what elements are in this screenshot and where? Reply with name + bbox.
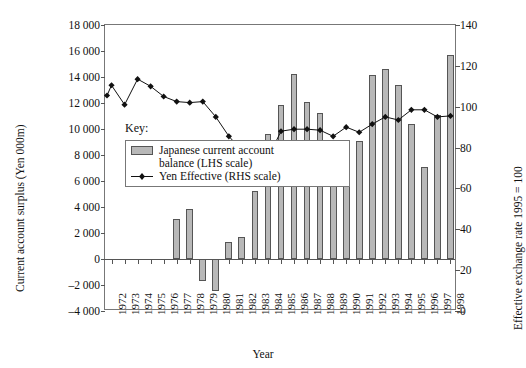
y-axis-left-tick-label: 6 000: [74, 175, 100, 187]
line-marker: [108, 82, 114, 88]
y-axis-right-title: Effective exchange rate 1995 = 100: [512, 166, 524, 330]
plot-area: –4 000–2 00002 0004 0006 0008 00010 0001…: [104, 24, 456, 310]
y-axis-left-tick-label: –4 000: [68, 305, 100, 317]
line-swatch-icon: [131, 171, 153, 182]
legend-label-bar: Japanese current account balance (LHS sc…: [159, 144, 274, 170]
line-marker: [369, 121, 375, 127]
y-axis-left-tick: [101, 311, 106, 312]
chart-figure: Current account surplus (Yen 000m) Effec…: [0, 0, 526, 368]
y-axis-left-tick-label: 16 000: [68, 45, 100, 57]
line-marker: [134, 76, 140, 82]
y-axis-right-tick-label: 40: [460, 223, 472, 235]
line-marker: [104, 92, 110, 98]
legend-item-bar: Japanese current account balance (LHS sc…: [131, 144, 343, 170]
line-marker: [304, 126, 310, 132]
y-axis-left-tick-label: 0: [94, 253, 100, 265]
line-marker: [343, 124, 349, 130]
line-marker: [187, 100, 193, 106]
y-axis-right-tick-label: 120: [460, 60, 477, 72]
line-marker: [421, 107, 427, 113]
y-axis-left-tick-label: 12 000: [68, 97, 100, 109]
y-axis-left-tick-label: 4 000: [74, 201, 100, 213]
y-axis-left-tick-label: 10 000: [68, 123, 100, 135]
y-axis-left-tick-label: 14 000: [68, 71, 100, 83]
y-axis-left-tick-label: 8 000: [74, 149, 100, 161]
y-axis-right-tick-label: 140: [460, 19, 477, 31]
line-marker: [434, 114, 440, 120]
line-marker: [121, 102, 127, 108]
y-axis-left-title: Current account surplus (Yen 000m): [14, 125, 26, 292]
line-marker: [447, 113, 453, 119]
line-marker: [382, 114, 388, 120]
y-axis-right-tick-label: 20: [460, 264, 472, 276]
legend-item-line: Yen Effective (RHS scale): [131, 170, 343, 183]
line-marker: [174, 99, 180, 105]
y-axis-left-tick-label: 2 000: [74, 227, 100, 239]
legend-box: Japanese current account balance (LHS sc…: [125, 140, 350, 187]
y-axis-right-tick-label: 100: [460, 101, 477, 113]
line-marker: [356, 129, 362, 135]
y-axis-left-tick-label: 18 000: [68, 19, 100, 31]
y-axis-right-tick-label: 60: [460, 182, 472, 194]
key-heading: Key:: [125, 121, 148, 136]
x-axis-title: Year: [0, 348, 526, 360]
y-axis-left-tick-label: –2 000: [68, 279, 100, 291]
bar-swatch-icon: [131, 146, 153, 155]
line-marker: [278, 128, 284, 134]
y-axis-right-tick-label: 80: [460, 142, 472, 154]
line-marker: [317, 127, 323, 133]
line-marker: [291, 126, 297, 132]
legend-label-line: Yen Effective (RHS scale): [159, 170, 281, 183]
